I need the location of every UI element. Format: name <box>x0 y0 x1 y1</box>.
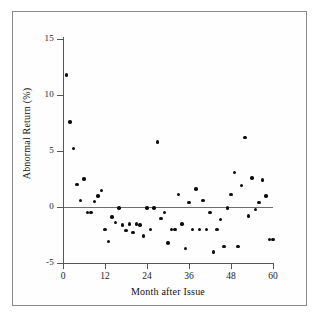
y-tick-mark <box>57 39 64 40</box>
scatter-point <box>103 228 106 231</box>
scatter-point <box>212 250 215 253</box>
x-tick-label: 12 <box>93 271 117 281</box>
scatter-point <box>173 228 176 231</box>
scatter-point <box>117 206 120 209</box>
scatter-point <box>236 245 239 248</box>
y-tick-mark <box>57 207 64 208</box>
y-tick-label-text: 5 <box>32 146 54 155</box>
y-tick-label: 0 <box>28 202 54 211</box>
y-tick-label-text: 15 <box>32 34 54 43</box>
x-axis-line <box>62 263 274 264</box>
scatter-point <box>257 201 260 204</box>
x-tick-mark <box>189 263 190 269</box>
y-tick-label: 15 <box>28 34 54 43</box>
scatter-point <box>247 214 250 217</box>
scatter-point <box>222 245 225 248</box>
x-tick-mark <box>273 263 274 269</box>
y-tick-label-text: 10 <box>32 90 54 99</box>
scatter-point <box>128 222 131 225</box>
scatter-point <box>121 223 124 226</box>
figure-scatter-abnormal-return: -5051015 01224364860 Month after Issue A… <box>0 0 320 319</box>
x-tick-label: 24 <box>135 271 159 281</box>
scatter-point <box>110 215 113 218</box>
scatter-point <box>100 189 103 192</box>
y-tick-label: 5 <box>28 146 54 155</box>
y-tick-label-text: -5 <box>32 258 54 267</box>
scatter-point <box>142 234 145 237</box>
scatter-point <box>194 187 197 190</box>
scatter-point <box>152 206 155 209</box>
scatter-point <box>226 206 229 209</box>
scatter-point <box>215 228 218 231</box>
y-tick-mark <box>57 95 64 96</box>
scatter-point <box>180 222 183 225</box>
scatter-point <box>82 177 85 180</box>
scatter-point <box>138 223 141 226</box>
x-axis-label: Month after Issue <box>63 286 273 297</box>
scatter-point <box>159 217 162 220</box>
scatter-point <box>201 199 204 202</box>
figure-border <box>12 11 307 306</box>
x-tick-mark <box>231 263 232 269</box>
scatter-point <box>156 140 159 143</box>
y-tick-label: 10 <box>28 90 54 99</box>
x-tick-label: 36 <box>177 271 201 281</box>
x-tick-mark <box>63 263 64 269</box>
x-tick-mark <box>105 263 106 269</box>
scatter-point <box>264 194 267 197</box>
scatter-point <box>89 211 92 214</box>
scatter-point <box>166 241 169 244</box>
y-tick-label-text: 0 <box>32 202 54 211</box>
scatter-point <box>187 201 190 204</box>
zero-reference-line <box>63 207 273 208</box>
scatter-point <box>243 136 246 139</box>
y-axis-label: Abnormal Return (%) <box>21 64 32 204</box>
x-tick-mark <box>147 263 148 269</box>
scatter-point <box>124 229 127 232</box>
scatter-point <box>96 194 99 197</box>
scatter-point <box>250 176 253 179</box>
scatter-point <box>208 211 211 214</box>
x-tick-label: 60 <box>261 271 285 281</box>
y-tick-label: -5 <box>28 258 54 267</box>
y-tick-mark <box>57 151 64 152</box>
scatter-point <box>68 120 71 123</box>
scatter-point <box>75 183 78 186</box>
scatter-point <box>261 178 264 181</box>
scatter-point <box>65 73 68 76</box>
x-tick-label: 0 <box>51 271 75 281</box>
x-tick-label: 48 <box>219 271 243 281</box>
scatter-point <box>271 238 274 241</box>
scatter-point <box>145 206 148 209</box>
